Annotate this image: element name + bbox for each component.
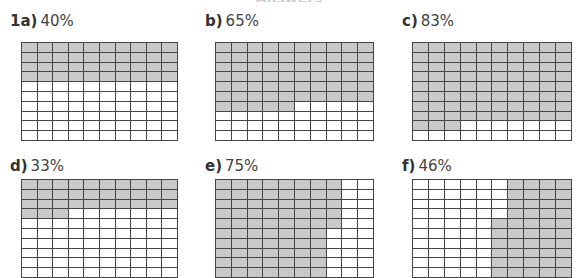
shaded-cell	[311, 268, 327, 278]
shaded-cell	[263, 229, 279, 239]
shaded-cell	[263, 190, 279, 200]
shaded-cell	[556, 249, 572, 259]
empty-cell	[38, 219, 54, 229]
empty-cell	[131, 209, 147, 219]
empty-cell	[162, 229, 178, 239]
shaded-cell	[327, 190, 343, 200]
problem-key: 1a)	[10, 12, 37, 30]
shaded-cell	[69, 200, 85, 210]
shaded-cell	[216, 239, 232, 249]
empty-cell	[131, 121, 147, 131]
shaded-cell	[540, 249, 556, 259]
empty-cell	[38, 131, 54, 141]
shaded-cell	[508, 102, 524, 112]
shaded-cell	[524, 102, 540, 112]
hundred-grid	[21, 42, 178, 141]
shaded-cell	[248, 72, 264, 82]
empty-cell	[100, 239, 116, 249]
shaded-cell	[216, 53, 232, 63]
shaded-cell	[508, 249, 524, 259]
shaded-cell	[100, 53, 116, 63]
shaded-cell	[429, 63, 445, 73]
empty-cell	[22, 229, 38, 239]
empty-cell	[38, 239, 54, 249]
empty-cell	[248, 112, 264, 122]
empty-cell	[116, 258, 132, 268]
empty-cell	[53, 229, 69, 239]
shaded-cell	[524, 53, 540, 63]
shaded-cell	[295, 209, 311, 219]
empty-cell	[53, 82, 69, 92]
empty-cell	[162, 121, 178, 131]
shaded-cell	[216, 268, 232, 278]
shaded-cell	[295, 63, 311, 73]
shaded-cell	[216, 229, 232, 239]
shaded-cell	[556, 43, 572, 53]
shaded-cell	[540, 102, 556, 112]
empty-cell	[311, 102, 327, 112]
shaded-cell	[147, 53, 163, 63]
shaded-cell	[38, 209, 54, 219]
problem-percent: 46%	[418, 157, 451, 175]
empty-cell	[461, 180, 477, 190]
shaded-cell	[524, 229, 540, 239]
empty-cell	[524, 131, 540, 141]
shaded-cell	[84, 63, 100, 73]
empty-cell	[100, 258, 116, 268]
hundred-grid	[21, 179, 178, 278]
hundred-grid	[215, 179, 374, 278]
empty-cell	[38, 112, 54, 122]
empty-cell	[342, 131, 358, 141]
empty-cell	[477, 190, 493, 200]
shaded-cell	[524, 209, 540, 219]
empty-cell	[445, 229, 461, 239]
shaded-cell	[100, 180, 116, 190]
empty-cell	[429, 180, 445, 190]
empty-cell	[147, 268, 163, 278]
shaded-cell	[429, 53, 445, 63]
shaded-cell	[445, 63, 461, 73]
shaded-cell	[232, 190, 248, 200]
shaded-cell	[461, 112, 477, 122]
empty-cell	[100, 82, 116, 92]
problem-percent: 40%	[40, 12, 73, 30]
empty-cell	[22, 239, 38, 249]
shaded-cell	[508, 258, 524, 268]
empty-cell	[162, 92, 178, 102]
shaded-cell	[248, 53, 264, 63]
shaded-cell	[461, 63, 477, 73]
shaded-cell	[492, 72, 508, 82]
shaded-cell	[508, 82, 524, 92]
shaded-cell	[232, 180, 248, 190]
empty-cell	[147, 249, 163, 259]
shaded-cell	[540, 53, 556, 63]
empty-cell	[342, 239, 358, 249]
shaded-cell	[540, 268, 556, 278]
shaded-cell	[556, 53, 572, 63]
shaded-cell	[492, 112, 508, 122]
shaded-cell	[429, 72, 445, 82]
empty-cell	[53, 92, 69, 102]
shaded-cell	[429, 82, 445, 92]
empty-cell	[358, 200, 374, 210]
shaded-cell	[216, 209, 232, 219]
empty-cell	[69, 82, 85, 92]
empty-cell	[69, 102, 85, 112]
empty-cell	[100, 229, 116, 239]
empty-cell	[116, 92, 132, 102]
empty-cell	[461, 190, 477, 200]
shaded-cell	[445, 102, 461, 112]
shaded-cell	[216, 258, 232, 268]
shaded-cell	[162, 43, 178, 53]
shaded-cell	[279, 268, 295, 278]
shaded-cell	[116, 72, 132, 82]
empty-cell	[100, 121, 116, 131]
empty-cell	[116, 131, 132, 141]
shaded-cell	[461, 82, 477, 92]
shaded-cell	[100, 63, 116, 73]
empty-cell	[524, 121, 540, 131]
shaded-cell	[131, 63, 147, 73]
empty-cell	[116, 239, 132, 249]
problem-label: 1a)40%	[10, 12, 74, 30]
shaded-cell	[524, 92, 540, 102]
